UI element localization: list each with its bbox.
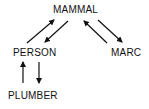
arrow-person-to-mammal	[27, 20, 54, 43]
node-mammal: MAMMAL	[53, 4, 98, 15]
arrow-mammal-to-marc	[98, 20, 122, 42]
node-marc: MARC	[111, 47, 141, 58]
node-plumber: PLUMBER	[8, 90, 58, 101]
node-person: PERSON	[13, 47, 56, 58]
